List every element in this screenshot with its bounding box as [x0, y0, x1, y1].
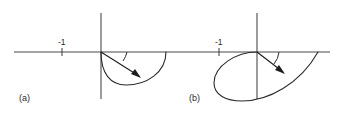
panel-a-arrow-head — [131, 69, 141, 78]
complex-plane-contour-figure: -1 (a) -1 (b) — [0, 0, 350, 114]
panel-b-angle-arc — [274, 52, 279, 64]
panel-a-tick-label: -1 — [58, 37, 66, 47]
panel-a-caption: (a) — [19, 93, 30, 103]
panel-b-tick-label: -1 — [215, 37, 223, 47]
panel-a-contour-curve — [101, 52, 166, 85]
panel-b: -1 (b) — [172, 13, 330, 103]
panel-a-angle-arc — [123, 52, 127, 61]
panel-a: -1 (a) — [14, 13, 172, 103]
panel-b-caption: (b) — [189, 93, 200, 103]
figure-pair-container: -1 (a) -1 (b) — [0, 0, 350, 114]
